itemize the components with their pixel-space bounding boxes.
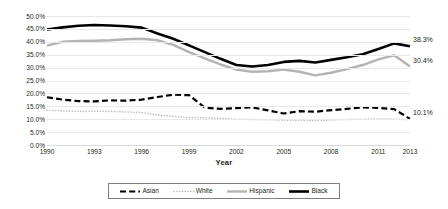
gridline bbox=[47, 42, 410, 43]
x-axis-tick-label: 2013 bbox=[390, 148, 430, 156]
gridline bbox=[47, 81, 410, 82]
gridline bbox=[47, 119, 410, 120]
y-axis-tick-label: 50.0% bbox=[1, 13, 45, 20]
legend-item-hispanic[interactable]: Hispanic bbox=[227, 187, 274, 196]
line-chart: 50.0%45.0%40.0%35.0%30.0%25.0%20.0%15.0%… bbox=[0, 0, 448, 209]
legend-swatch-asian bbox=[120, 187, 140, 196]
y-axis-tick-label: 15.0% bbox=[1, 103, 45, 110]
legend-label-hispanic: Hispanic bbox=[249, 187, 274, 195]
legend-swatch-hispanic bbox=[227, 187, 247, 196]
legend-label-black: Black bbox=[311, 187, 327, 195]
y-axis-tick-label: 30.0% bbox=[1, 64, 45, 71]
gridline bbox=[47, 68, 410, 69]
y-axis-tick-label: 25.0% bbox=[1, 77, 45, 84]
black-end-label: 38.3% bbox=[413, 36, 433, 44]
legend-item-asian[interactable]: Asian bbox=[120, 187, 159, 196]
legend-swatch-black bbox=[289, 187, 309, 196]
y-axis-tick-label: 20.0% bbox=[1, 90, 45, 97]
legend-label-asian: Asian bbox=[142, 187, 159, 195]
x-axis-tick-label: 1993 bbox=[74, 148, 114, 156]
y-axis-tick-label: 35.0% bbox=[1, 51, 45, 58]
x-axis-tick-label: 1999 bbox=[169, 148, 209, 156]
legend-label-white: White bbox=[196, 187, 213, 195]
legend-item-white[interactable]: White bbox=[174, 187, 213, 196]
asian-end-label: 10.1% bbox=[413, 109, 433, 117]
chart-legend: AsianWhiteHispanicBlack bbox=[108, 183, 340, 199]
gridline bbox=[47, 16, 410, 17]
gridline bbox=[47, 29, 410, 30]
hispanic-end-label: 30.4% bbox=[413, 57, 433, 65]
gridline bbox=[47, 55, 410, 56]
x-axis-title: Year bbox=[0, 158, 448, 167]
y-axis-tick-label: 40.0% bbox=[1, 38, 45, 45]
y-axis-labels: 50.0%45.0%40.0%35.0%30.0%25.0%20.0%15.0%… bbox=[0, 0, 45, 209]
x-axis-tick-label: 1996 bbox=[122, 148, 162, 156]
gridlines bbox=[47, 16, 410, 145]
gridline bbox=[47, 106, 410, 107]
plot-area bbox=[47, 16, 410, 145]
legend-item-black[interactable]: Black bbox=[289, 187, 327, 196]
x-axis-tick-label: 2005 bbox=[264, 148, 304, 156]
y-axis-tick-label: 45.0% bbox=[1, 25, 45, 32]
gridline bbox=[47, 132, 410, 133]
gridline bbox=[47, 93, 410, 94]
y-axis-tick-label: 10.0% bbox=[1, 116, 45, 123]
y-axis-tick-label: 5.0% bbox=[1, 129, 45, 136]
x-axis-tick-label: 2008 bbox=[311, 148, 351, 156]
x-axis-tick-label: 2002 bbox=[216, 148, 256, 156]
x-axis-tick-label: 1990 bbox=[27, 148, 67, 156]
legend-swatch-white bbox=[174, 187, 194, 196]
x-axis-baseline bbox=[47, 145, 410, 146]
